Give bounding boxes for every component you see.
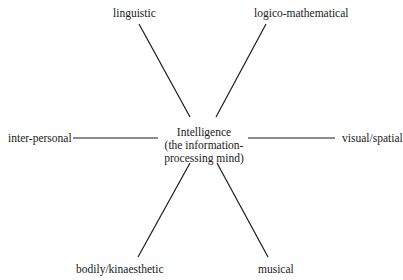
node-visual-spatial: visual/spatial: [342, 133, 403, 145]
edge-musical: [217, 163, 268, 257]
center-title: Intelligence: [160, 126, 248, 139]
center-subtitle-line1: (the information-: [160, 139, 248, 152]
node-logico-mathematical: logico-mathematical: [254, 8, 349, 20]
edge-bodily-kinaesthetic: [138, 163, 190, 257]
node-musical: musical: [258, 264, 294, 276]
node-inter-personal: inter-personal: [8, 133, 72, 145]
node-linguistic: linguistic: [113, 8, 156, 20]
edge-logico-mathematical: [216, 24, 266, 117]
edge-linguistic: [139, 24, 190, 117]
node-bodily-kinaesthetic: bodily/kinaesthetic: [76, 264, 164, 276]
center-subtitle-line2: processing mind): [160, 152, 248, 165]
center-node-intelligence: Intelligence (the information- processin…: [160, 126, 248, 165]
